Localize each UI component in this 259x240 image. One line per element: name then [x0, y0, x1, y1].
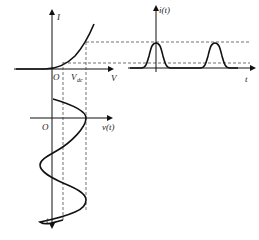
it-axis-label: i(t): [159, 5, 170, 15]
vdc-subscript: dc: [77, 77, 83, 83]
voltage-waveform-plot: O v(t) t: [30, 78, 115, 226]
current-waveform-plot: i(t) t: [128, 5, 253, 84]
i-axis-label: I: [56, 12, 61, 22]
diode-waveform-diagram: I V O V dc i(t) t O v(t) t: [0, 0, 259, 240]
iv-curve: [16, 24, 94, 69]
t-axis-label: t: [245, 74, 248, 84]
vt-origin-label: O: [42, 122, 49, 132]
vt-axis-label: v(t): [102, 122, 115, 132]
current-pulses: [130, 43, 238, 68]
v-axis-label: V: [111, 73, 118, 83]
iv-origin-label: O: [53, 72, 60, 82]
